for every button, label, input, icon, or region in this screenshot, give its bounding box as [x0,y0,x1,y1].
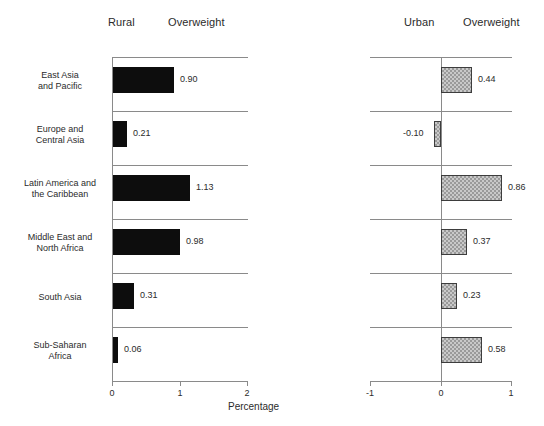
category-label-south-asia: South Asia [14,292,106,303]
rural-x-ticklabel: 1 [168,388,192,398]
bar-rural-middle-east-and-north-africa[interactable] [113,229,180,255]
category-label-line: Middle East and [10,232,110,243]
bar-value-rural-latin-america-and-the-caribbean: 1.13 [196,182,214,192]
bar-urban-europe-and-central-asia[interactable] [434,121,441,147]
bar-rural-south-asia[interactable] [113,283,134,309]
left-panel-group-label: Rural [108,16,135,28]
gridline [112,273,248,274]
rural-x-ticklabel: 2 [235,388,259,398]
left-panel-measure-label: Overweight [168,16,225,28]
category-label-line: Sub-Saharan [14,340,106,351]
bar-value-rural-sub-saharan-africa: 0.06 [124,344,142,354]
urban-x-tick [511,382,512,386]
bar-urban-middle-east-and-north-africa[interactable] [441,229,467,255]
bar-urban-south-asia[interactable] [441,283,457,309]
category-label-middle-east-and-north-africa: Middle East and North Africa [10,232,110,254]
bar-rural-europe-and-central-asia[interactable] [113,121,127,147]
urban-plot-area: -1 0 1 0.44 -0.10 0.86 0.37 0.23 0.58 [370,57,512,381]
rural-x-ticklabel: 0 [100,388,124,398]
right-panel-measure-label: Overweight [463,16,520,28]
category-label-line: Latin America and [6,178,114,189]
rural-x-tick [112,382,113,386]
urban-x-tick [370,382,371,386]
rural-x-tick [247,382,248,386]
bar-rural-sub-saharan-africa[interactable] [113,337,118,363]
bar-value-rural-middle-east-and-north-africa: 0.98 [186,236,204,246]
category-label-line: and Pacific [14,81,106,92]
bar-rural-latin-america-and-the-caribbean[interactable] [113,175,190,201]
category-label-latin-america-and-the-caribbean: Latin America and the Caribbean [6,178,114,200]
category-label-line: Europe and [14,124,106,135]
category-label-line: South Asia [14,292,106,303]
bar-urban-sub-saharan-africa[interactable] [441,337,482,363]
bar-value-rural-south-asia: 0.31 [140,290,158,300]
bar-value-rural-europe-and-central-asia: 0.21 [133,128,151,138]
urban-x-ticklabel: -1 [358,388,382,398]
category-label-line: the Caribbean [6,189,114,200]
gridline [112,111,248,112]
gridline [112,165,248,166]
category-label-line: Africa [14,351,106,362]
urban-x-tick [441,382,442,386]
rural-plot-area: 0 1 2 0.90 0.21 1.13 0.98 0.31 0.06 [112,57,248,381]
category-label-line: East Asia [14,70,106,81]
category-label-line: North Africa [10,243,110,254]
bar-value-urban-europe-and-central-asia: -0.10 [403,128,424,138]
bar-value-urban-latin-america-and-the-caribbean: 0.86 [508,182,526,192]
bar-rural-east-asia-and-pacific[interactable] [113,67,174,93]
urban-x-ticklabel: 1 [499,388,523,398]
bar-urban-east-asia-and-pacific[interactable] [441,67,472,93]
category-label-line: Central Asia [14,135,106,146]
bar-value-urban-east-asia-and-pacific: 0.44 [478,74,496,84]
category-label-sub-saharan-africa: Sub-Saharan Africa [14,340,106,362]
bar-value-rural-east-asia-and-pacific: 0.90 [180,74,198,84]
bar-value-urban-south-asia: 0.23 [463,290,481,300]
bar-value-urban-middle-east-and-north-africa: 0.37 [473,236,491,246]
x-axis-title: Percentage [228,401,279,412]
right-panel-group-label: Urban [404,16,434,28]
gridline [112,327,248,328]
category-label-east-asia-and-pacific: East Asia and Pacific [14,70,106,92]
chart-figure: Rural Overweight Urban Overweight East A… [0,0,544,426]
urban-zero-line [441,57,442,381]
gridline [112,219,248,220]
bar-urban-latin-america-and-the-caribbean[interactable] [441,175,502,201]
gridline [112,57,248,58]
urban-x-ticklabel: 0 [429,388,453,398]
rural-x-tick [180,382,181,386]
rural-y-axis-line [112,57,113,381]
category-label-europe-and-central-asia: Europe and Central Asia [14,124,106,146]
bar-value-urban-sub-saharan-africa: 0.58 [488,344,506,354]
